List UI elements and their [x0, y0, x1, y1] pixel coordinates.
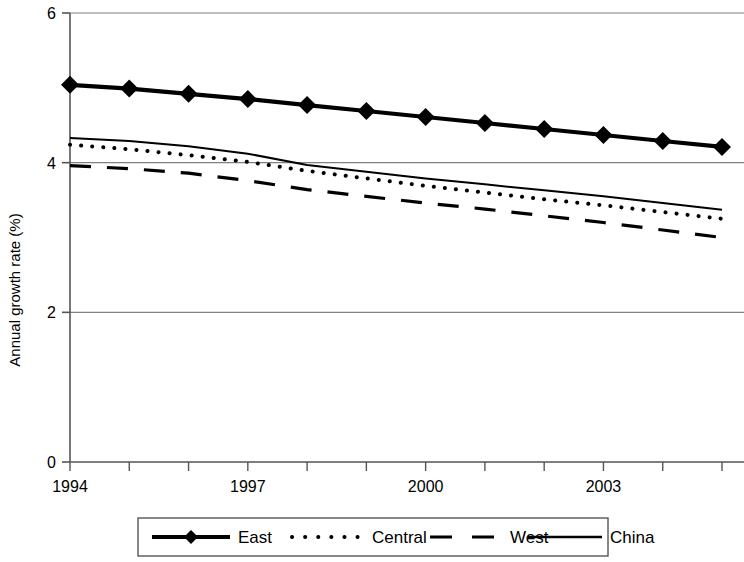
data-point-marker [120, 80, 138, 98]
data-point-marker [535, 120, 553, 138]
series-west [70, 166, 722, 238]
series-line [70, 145, 722, 219]
data-point-marker [654, 132, 672, 150]
x-tick-label: 2000 [408, 478, 444, 495]
y-tick-label: 2 [47, 304, 56, 321]
x-axis-tick-labels: 1994199720002003 [52, 478, 621, 495]
series-central [70, 145, 722, 219]
series-line [70, 138, 722, 210]
legend-label-central: Central [372, 528, 427, 547]
data-point-marker [713, 138, 731, 156]
y-axis-tick-labels: 0246 [47, 5, 56, 471]
y-tick-label: 0 [47, 454, 56, 471]
y-tick-label: 6 [47, 5, 56, 22]
gridlines [70, 13, 744, 312]
x-axis-ticks [62, 13, 722, 471]
data-point-marker [61, 76, 79, 94]
data-point-marker [180, 85, 198, 103]
data-point-marker [594, 126, 612, 144]
legend-label-china: China [610, 528, 655, 547]
data-point-marker [298, 96, 316, 114]
y-axis-label: Annual growth rate (%) [6, 213, 23, 366]
data-series-group [61, 76, 731, 238]
y-tick-label: 4 [47, 155, 56, 172]
series-china [70, 138, 722, 210]
x-tick-label: 2003 [586, 478, 622, 495]
legend-label-east: East [238, 528, 272, 547]
x-tick-label: 1997 [230, 478, 266, 495]
x-tick-label: 1994 [52, 478, 88, 495]
series-line [70, 85, 722, 147]
line-chart: 0246 1994199720002003 Annual growth rate… [0, 0, 744, 562]
data-point-marker [417, 108, 435, 126]
data-point-marker [239, 90, 257, 108]
chart-legend: EastCentralWestChina [138, 518, 655, 556]
data-point-marker [476, 114, 494, 132]
chart-figure: 0246 1994199720002003 Annual growth rate… [0, 0, 744, 562]
axes [70, 13, 744, 462]
data-point-marker [357, 102, 375, 120]
series-line [70, 166, 722, 238]
